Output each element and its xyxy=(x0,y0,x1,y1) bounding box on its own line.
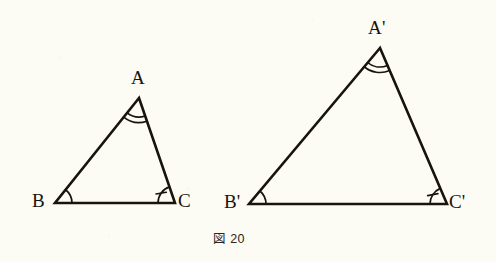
vertex-label-c: C xyxy=(178,191,191,210)
large-triangle xyxy=(249,48,447,204)
figure-canvas: A B C A' B' C' 図 20 xyxy=(0,0,496,262)
figure-caption: 図 20 xyxy=(213,233,245,246)
angle-arc-A-1 xyxy=(127,113,145,117)
vertex-label-a-prime: A' xyxy=(368,18,386,37)
small-triangle-outline xyxy=(55,98,175,203)
geometry-drawing xyxy=(0,0,496,262)
vertex-label-a: A xyxy=(131,68,145,87)
angle-arc-A-prime-1 xyxy=(368,63,388,67)
vertex-label-b-prime: B' xyxy=(224,192,241,211)
angle-arc-B-prime-1 xyxy=(260,191,266,204)
angle-arc-C-1 xyxy=(158,187,169,203)
vertex-label-c-prime: C' xyxy=(449,192,466,211)
angle-tick-C-prime xyxy=(428,194,438,196)
angle-tick-C xyxy=(156,192,166,194)
small-triangle xyxy=(55,98,175,203)
large-triangle-outline xyxy=(249,48,447,204)
angle-arc-A-prime-2 xyxy=(364,67,389,73)
angle-arc-B-1 xyxy=(66,190,72,203)
vertex-label-b: B xyxy=(32,191,45,210)
angle-arc-A-2 xyxy=(124,117,147,122)
angle-arc-C-prime-1 xyxy=(430,188,440,204)
